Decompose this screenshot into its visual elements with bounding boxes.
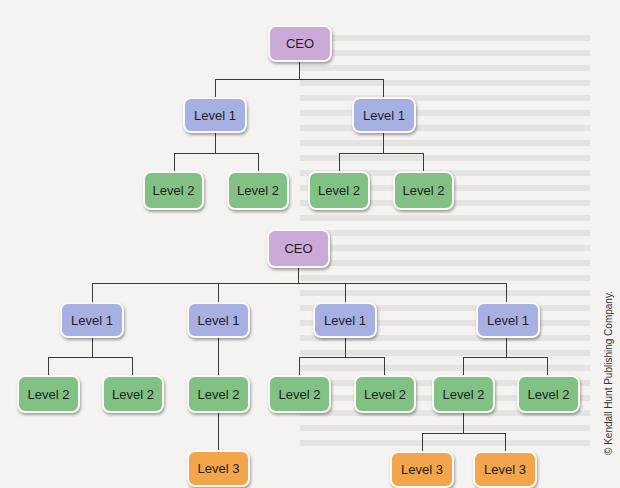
connector: [506, 283, 507, 302]
connector: [384, 357, 385, 375]
level2-node: Level 2: [268, 375, 331, 413]
level2-node: Level 2: [354, 375, 416, 413]
connector: [345, 283, 346, 302]
level1-node: Level 1: [187, 302, 250, 338]
connector: [299, 357, 300, 375]
connector: [48, 357, 49, 375]
ceo-node: CEO: [267, 229, 330, 268]
connector: [422, 433, 423, 451]
copyright-notice: © Kendall Hunt Publishing Company.: [603, 291, 614, 455]
connector: [215, 133, 216, 153]
connector: [132, 357, 133, 375]
connector: [345, 338, 346, 357]
level1-node: Level 1: [352, 97, 416, 133]
connector: [506, 338, 507, 357]
connector: [339, 153, 424, 154]
level2-node: Level 2: [143, 171, 204, 210]
level2-node: Level 2: [17, 375, 80, 413]
connector: [92, 338, 93, 357]
connector: [258, 153, 259, 171]
connector: [463, 357, 548, 358]
level2-node: Level 2: [517, 375, 580, 413]
connector: [423, 153, 424, 171]
connector: [218, 338, 219, 375]
level2-node: Level 2: [187, 375, 250, 413]
level1-node: Level 1: [60, 302, 124, 338]
level2-node: Level 2: [432, 375, 495, 413]
level2-node: Level 2: [227, 171, 289, 210]
connector: [218, 283, 219, 302]
connector: [422, 433, 506, 434]
connector: [218, 413, 219, 450]
level3-node: Level 3: [187, 450, 250, 487]
connector: [174, 153, 175, 171]
connector: [299, 62, 300, 79]
connector: [463, 357, 464, 375]
ceo-node: CEO: [268, 25, 332, 62]
level1-node: Level 1: [183, 97, 247, 133]
connector: [547, 357, 548, 375]
connector: [505, 433, 506, 451]
connector: [92, 283, 507, 284]
level3-node: Level 3: [390, 451, 454, 488]
level2-node: Level 2: [393, 171, 454, 210]
connector: [339, 153, 340, 171]
level2-node: Level 2: [102, 375, 164, 413]
connector: [215, 79, 384, 80]
connector: [383, 79, 384, 97]
connector: [215, 79, 216, 97]
connector: [174, 153, 259, 154]
connector: [92, 283, 93, 302]
level2-node: Level 2: [308, 171, 370, 210]
connector: [298, 268, 299, 283]
level3-node: Level 3: [473, 451, 537, 488]
level1-node: Level 1: [313, 302, 377, 338]
connector: [48, 357, 133, 358]
connector: [299, 357, 385, 358]
level1-node: Level 1: [476, 302, 540, 338]
connector: [463, 413, 464, 433]
connector: [383, 133, 384, 153]
